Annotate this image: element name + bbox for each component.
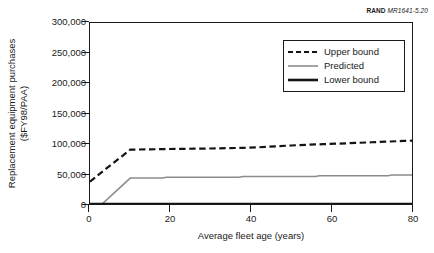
legend-label-upper-bound: Upper bound (324, 47, 379, 57)
legend-label-predicted: Predicted (324, 61, 364, 71)
series-line-predicted (90, 175, 412, 204)
figure-number: MR1641-5.20 (388, 7, 428, 14)
legend-item-lower-bound[interactable]: Lower bound (288, 73, 399, 87)
x-tick-label: 0 (69, 214, 109, 224)
x-tick-mark (169, 205, 170, 212)
x-tick-label: 20 (150, 214, 190, 224)
x-axis-title: Average fleet age (years) (89, 230, 413, 241)
x-tick-label: 80 (393, 214, 433, 224)
y-tick-label: 150,000 (26, 109, 86, 119)
x-tick-mark (331, 205, 332, 212)
y-tick-label: 0 (26, 200, 86, 210)
y-tick-label: 200,000 (26, 78, 86, 88)
legend-item-predicted[interactable]: Predicted (288, 59, 399, 73)
figure-id: RAND MR1641-5.20 (366, 7, 428, 14)
x-tick-mark (88, 205, 89, 212)
legend-swatch-lower-bound (288, 75, 318, 85)
y-tick-label: 50,000 (26, 170, 86, 180)
x-tick-label: 40 (231, 214, 271, 224)
x-tick-mark (412, 205, 413, 212)
y-tick-label: 100,000 (26, 139, 86, 149)
y-axis-title-line-1: Replacement equipment purchases (6, 39, 19, 188)
legend-item-upper-bound[interactable]: Upper bound (288, 45, 399, 59)
chart-legend: Upper boundPredictedLower bound (283, 40, 405, 92)
legend-swatch-predicted (288, 61, 318, 71)
x-tick-label: 60 (312, 214, 352, 224)
y-tick-label: 250,000 (26, 48, 86, 58)
x-tick-mark (250, 205, 251, 212)
y-tick-label: 300,000 (26, 17, 86, 27)
legend-swatch-upper-bound (288, 47, 318, 57)
legend-label-lower-bound: Lower bound (324, 75, 379, 85)
rand-logo-text: RAND (366, 7, 385, 14)
